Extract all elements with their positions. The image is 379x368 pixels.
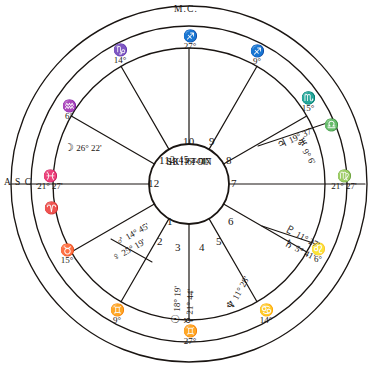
house-number-9: 9 bbox=[209, 136, 215, 148]
cusp-mc-sagittarius: ♐ 27° bbox=[176, 30, 204, 52]
cusp-desc-virgo: ♍ 21° 27' bbox=[323, 170, 365, 192]
cusp-aries: ♈ bbox=[38, 202, 64, 214]
moon-icon: ☽ bbox=[64, 141, 74, 153]
mc-label: M.C. bbox=[174, 5, 198, 15]
cusp-cancer: ♋ 14° bbox=[253, 304, 279, 326]
house-number-2: 2 bbox=[157, 236, 163, 248]
planet-position: 26° 22' bbox=[76, 143, 101, 153]
libra-icon: ♎ bbox=[318, 119, 344, 131]
cusp-degree: 9° bbox=[104, 316, 130, 326]
planet-position: 18° 19' bbox=[172, 286, 183, 312]
house-number-10: 10 bbox=[183, 136, 194, 148]
house-number-3: 3 bbox=[175, 242, 181, 254]
cusp-degree: 6° bbox=[56, 112, 82, 122]
planet-sun: ☉ 18° 19' bbox=[170, 286, 183, 324]
cusp-degree: 21° 27' bbox=[29, 182, 71, 192]
cusp-degree: 15° bbox=[295, 104, 321, 114]
cusp-degree: 15° bbox=[54, 256, 80, 266]
mercury-icon: ☿ bbox=[182, 317, 194, 324]
house-number-8: 8 bbox=[226, 155, 232, 167]
house-number-7: 7 bbox=[231, 178, 237, 190]
planet-position: 21° 44' bbox=[185, 289, 196, 315]
cusp-degree: 9° bbox=[244, 57, 270, 67]
house-number-6: 6 bbox=[228, 216, 234, 228]
aries-icon: ♈ bbox=[38, 202, 64, 214]
cusp-capricorn: ♑ 14° bbox=[107, 44, 133, 66]
cusp-ic-gemini: ♊ 27° bbox=[176, 325, 204, 347]
cusp-libra: ♎ bbox=[318, 119, 344, 131]
house-number-12: 12 bbox=[148, 178, 159, 190]
planet-mercury: ☿ 21° 44' bbox=[183, 289, 196, 324]
cusp-degree: 21° 27' bbox=[323, 182, 365, 192]
house-number-5: 5 bbox=[216, 236, 222, 248]
cusp-degree: 27° bbox=[176, 42, 204, 52]
cusp-aquarius: ♒ 6° bbox=[56, 100, 82, 122]
house-number-11: 11 bbox=[159, 155, 170, 167]
house-number-4: 4 bbox=[199, 242, 205, 254]
cusp-scorpio: ♏ 15° bbox=[295, 92, 321, 114]
horoscope-chart: M.C. A S C . 2·45 a.m. 10 · 6 · 47 SKIPT… bbox=[0, 0, 379, 368]
cusp-degree: 14° bbox=[107, 56, 133, 66]
planet-moon: ☽ 26° 22' bbox=[64, 142, 102, 154]
cusp-degree: 14° bbox=[253, 316, 279, 326]
cusp-gemini-lower-left: ♊ 9° bbox=[104, 304, 130, 326]
cusp-sagittarius-upper-right: ♐ 9° bbox=[244, 45, 270, 67]
cusp-degree: 27° bbox=[176, 337, 204, 347]
cusp-taurus: ♉ 15° bbox=[54, 244, 80, 266]
house-number-1: 1 bbox=[167, 216, 173, 228]
cusp-asc-pisces: ♓ 21° 27' bbox=[29, 170, 71, 192]
sun-icon: ☉ bbox=[169, 314, 181, 324]
